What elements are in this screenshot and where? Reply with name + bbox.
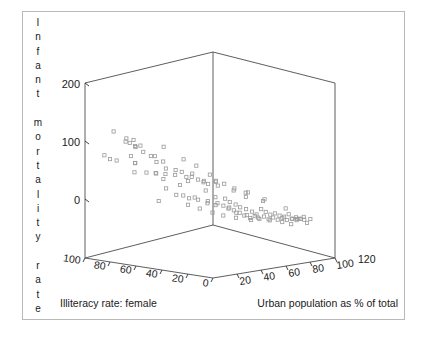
y-ticklabel-120: 120	[358, 253, 376, 265]
data-point	[206, 182, 209, 185]
data-point	[309, 217, 312, 220]
data-point	[285, 218, 288, 221]
data-point	[153, 155, 156, 158]
axes-box	[85, 52, 335, 278]
y-ticklabel-40: 40	[262, 269, 276, 283]
data-point	[180, 170, 183, 173]
data-point	[165, 187, 168, 190]
box-edge-backright-top	[213, 52, 335, 83]
data-point	[281, 220, 284, 223]
data-point	[142, 150, 145, 153]
data-point	[149, 154, 152, 157]
x-tick-60	[134, 266, 136, 270]
y-ticklabel-100: 100	[335, 256, 354, 271]
y-ticklabel-80: 80	[311, 261, 325, 275]
data-point	[139, 144, 142, 147]
y-ticklabel-60: 60	[287, 265, 301, 279]
data-point	[214, 180, 217, 183]
data-point	[187, 179, 190, 182]
z-ticklabel-0: 0	[74, 194, 80, 206]
data-point	[157, 199, 160, 202]
data-point	[244, 208, 247, 211]
data-point	[124, 140, 127, 143]
x-axis-title: Illiteracy rate: female	[60, 297, 157, 309]
data-point	[287, 213, 290, 216]
data-point	[191, 172, 194, 175]
data-point	[211, 211, 214, 214]
x-tick-0	[211, 278, 213, 282]
figure-canvas: I n f a n t m o r t a l i t y r a t e	[0, 0, 425, 337]
data-point	[290, 223, 293, 226]
data-point	[164, 167, 167, 170]
data-point	[190, 175, 193, 178]
data-point	[108, 158, 111, 161]
data-point	[162, 145, 165, 148]
data-point	[305, 221, 308, 224]
data-point	[103, 154, 106, 157]
data-point	[132, 138, 135, 141]
data-point	[223, 182, 226, 185]
x-tick-80	[108, 262, 110, 266]
data-point	[216, 184, 219, 187]
data-point	[129, 154, 132, 157]
data-point	[162, 177, 165, 180]
data-point	[195, 164, 198, 167]
data-point	[260, 208, 263, 211]
data-point	[187, 197, 190, 200]
data-point	[128, 141, 131, 144]
data-point	[164, 172, 167, 175]
data-point	[133, 171, 136, 174]
data-point	[250, 210, 253, 213]
data-point	[238, 211, 241, 214]
data-point	[174, 168, 177, 171]
data-point	[112, 130, 115, 133]
x-ticklabel-40: 40	[145, 266, 159, 280]
data-point	[145, 171, 148, 174]
x-ticklabel-80: 80	[93, 258, 107, 272]
data-point	[186, 203, 189, 206]
data-point	[162, 160, 165, 163]
data-point	[222, 214, 225, 217]
data-point	[284, 207, 287, 210]
scatter3d-scene: 200 100 0 100 80 60 40 20 0 20	[0, 0, 425, 337]
data-point	[125, 137, 128, 140]
data-point	[185, 175, 188, 178]
data-point	[155, 160, 158, 163]
data-point	[198, 207, 201, 210]
data-point	[174, 173, 177, 176]
data-point	[204, 189, 207, 192]
x-tick-40	[160, 270, 162, 274]
x-ticklabel-0: 0	[202, 276, 210, 289]
z-ticklabel-200: 200	[62, 78, 80, 90]
data-point	[182, 158, 185, 161]
x-tick-20	[186, 274, 188, 278]
x-tick-100	[83, 258, 85, 262]
data-point	[178, 183, 181, 186]
data-point	[234, 216, 237, 219]
z-tick-200	[85, 83, 89, 86]
z-tick-100	[85, 141, 89, 144]
z-ticklabel-100: 100	[62, 136, 80, 148]
z-tick-0	[85, 199, 89, 202]
data-point-group	[103, 130, 312, 226]
box-floor-right	[213, 225, 335, 258]
data-point	[222, 204, 225, 207]
data-point	[214, 179, 217, 182]
data-point	[234, 203, 237, 206]
y-ticklabel-20: 20	[238, 273, 252, 287]
x-ticklabel-100: 100	[62, 251, 81, 266]
y-axis-title: Urban population as % of total	[257, 297, 398, 309]
data-point	[262, 215, 265, 218]
data-point	[239, 206, 242, 209]
data-point	[264, 210, 267, 213]
data-point	[197, 178, 200, 181]
data-point	[224, 197, 227, 200]
data-point	[196, 198, 199, 201]
x-ticklabel-20: 20	[171, 271, 185, 285]
data-point	[115, 159, 118, 162]
data-point	[193, 196, 196, 199]
y-axis-ticks: 20 40 60 80 100 120	[237, 253, 376, 287]
data-point	[208, 173, 211, 176]
data-point	[175, 193, 178, 196]
data-point	[244, 195, 247, 198]
